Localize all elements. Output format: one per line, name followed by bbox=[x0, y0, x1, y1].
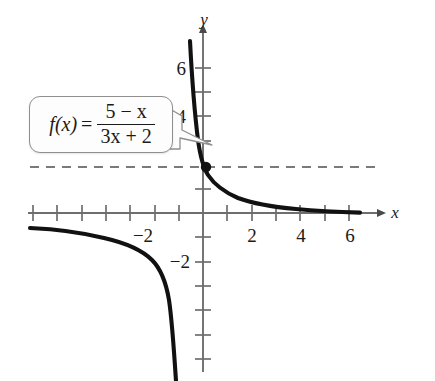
y-tick-label-neg2: −2 bbox=[170, 251, 190, 272]
plot-canvas: x y −2 2 4 6 6 4 −2 bbox=[0, 0, 435, 381]
x-axis-label: x bbox=[390, 203, 399, 222]
fraction: 5 − x 3x + 2 bbox=[97, 101, 154, 148]
formula: f(x) = 5 − x 3x + 2 bbox=[47, 101, 154, 148]
x-tick-label-neg2: −2 bbox=[133, 225, 153, 246]
equals-sign: = bbox=[81, 113, 92, 136]
function-name: f(x) bbox=[49, 113, 77, 136]
numerator: 5 − x bbox=[102, 101, 149, 123]
intercept-point bbox=[201, 162, 211, 172]
curve-left-branch bbox=[30, 228, 176, 381]
axes-group bbox=[28, 32, 378, 372]
x-tick-label-2: 2 bbox=[247, 225, 257, 246]
x-tick-label-6: 6 bbox=[345, 225, 355, 246]
x-tick-label-4: 4 bbox=[296, 225, 306, 246]
function-definition-callout: f(x) = 5 − x 3x + 2 bbox=[29, 96, 173, 153]
y-axis-label: y bbox=[198, 10, 208, 29]
y-tick-label-4: 4 bbox=[177, 106, 187, 127]
curve-right-branch bbox=[190, 41, 360, 213]
y-tick-label-6: 6 bbox=[177, 58, 187, 79]
graph-figure: x y −2 2 4 6 6 4 −2 f(x) = 5 − x 3x + 2 bbox=[0, 0, 435, 381]
denominator: 3x + 2 bbox=[97, 126, 154, 148]
